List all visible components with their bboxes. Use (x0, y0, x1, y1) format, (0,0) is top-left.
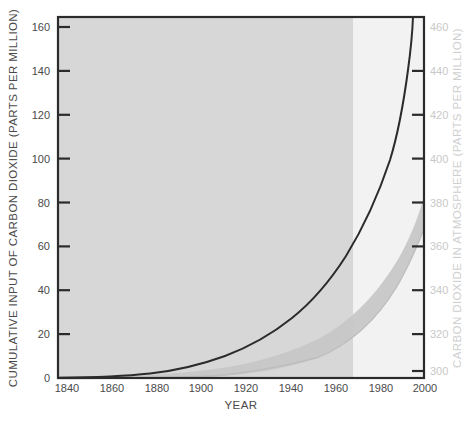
left-tick-label: 100 (32, 153, 50, 165)
bottom-tick-label: 1880 (145, 382, 169, 394)
chart-figure: 160 140 120 100 80 60 40 20 0 460 440 42… (0, 0, 468, 426)
left-tick-label: 40 (38, 284, 50, 296)
right-tick-label: 320 (430, 328, 448, 340)
co2-chart-svg: 160 140 120 100 80 60 40 20 0 460 440 42… (0, 0, 468, 426)
right-tick-label: 420 (430, 109, 448, 121)
plot-background-historical (58, 17, 353, 378)
bottom-tick-label: 2000 (413, 382, 437, 394)
bottom-tick-label: 1940 (279, 382, 303, 394)
left-tick-label: 120 (32, 109, 50, 121)
bottom-tick-label: 1960 (324, 382, 348, 394)
left-axis-title: CUMULATIVE INPUT OF CARBON DIOXIDE (PART… (7, 9, 19, 388)
right-tick-label: 380 (430, 197, 448, 209)
bottom-tick-label: 1980 (369, 382, 393, 394)
right-tick-label: 360 (430, 240, 448, 252)
bottom-tick-label: 1840 (55, 382, 79, 394)
left-tick-label: 160 (32, 21, 50, 33)
bottom-tick-label: 1900 (189, 382, 213, 394)
right-tick-label: 400 (430, 153, 448, 165)
right-tick-label: 340 (430, 284, 448, 296)
right-tick-label: 460 (430, 21, 448, 33)
right-axis-title: CARBON DIOXIDE IN ATMOSPHERE (PARTS PER … (451, 28, 463, 368)
bottom-tick-label: 1860 (100, 382, 124, 394)
bottom-tick-label: 1920 (234, 382, 258, 394)
right-tick-label: 440 (430, 65, 448, 77)
bottom-axis-title: YEAR (225, 399, 258, 411)
left-tick-label: 80 (38, 197, 50, 209)
right-tick-label: 300 (430, 365, 448, 377)
left-tick-label: 60 (38, 240, 50, 252)
left-tick-label: 140 (32, 65, 50, 77)
left-tick-label: 0 (44, 372, 50, 384)
left-tick-label: 20 (38, 328, 50, 340)
